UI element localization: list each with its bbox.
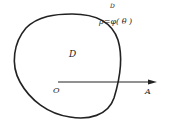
closed-curve	[14, 14, 120, 118]
curve-equation-label: ρ=φ( θ )	[98, 17, 132, 26]
polar-axis-label: A	[144, 87, 151, 96]
region-label: D	[68, 49, 76, 59]
origin-label: O	[53, 86, 60, 95]
top-label: D	[109, 2, 115, 9]
arrowhead-icon	[148, 80, 157, 85]
polar-region-diagram: D ρ=φ( θ ) D O A	[0, 0, 170, 130]
